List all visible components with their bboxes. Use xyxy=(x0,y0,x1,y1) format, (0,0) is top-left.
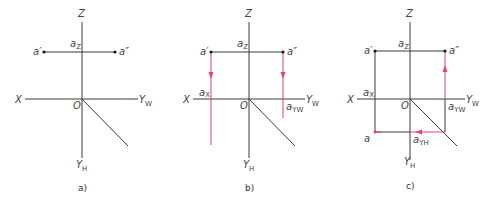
point-a-side xyxy=(281,50,284,53)
label-az: aZ xyxy=(70,38,81,51)
point-a-front xyxy=(209,50,212,53)
label-ax: aX xyxy=(199,87,210,99)
label-x: X xyxy=(14,94,23,105)
point-a-side xyxy=(113,50,116,53)
point-a-top xyxy=(374,131,377,134)
label-yw: YW xyxy=(466,94,479,108)
caption-b: b) xyxy=(245,183,254,193)
label-yh: YH xyxy=(243,159,254,173)
label-ayh: aYH xyxy=(413,134,429,147)
label-a-side: a″ xyxy=(119,46,129,57)
label-az: aZ xyxy=(237,38,248,51)
label-o: O xyxy=(401,100,409,111)
label-yh: YH xyxy=(76,159,87,173)
label-x: X xyxy=(346,94,355,105)
label-yw: YW xyxy=(306,94,319,108)
orthographic-projection-diagram: Z X O YW YH a′ a″ aZ a) Z X O YW YH a′ a… xyxy=(0,0,497,205)
point-a-side xyxy=(443,49,446,52)
arrow-up-icon xyxy=(443,65,448,72)
label-a-front: a′ xyxy=(200,46,209,57)
label-az: aZ xyxy=(398,38,409,51)
label-yw: YW xyxy=(139,94,152,108)
caption-c: c) xyxy=(406,181,414,191)
arrow-down-icon xyxy=(209,72,214,79)
label-z: Z xyxy=(405,8,414,19)
label-o: O xyxy=(240,100,248,111)
label-a-top: a xyxy=(364,133,370,144)
arrow-down-icon xyxy=(281,72,286,79)
label-x: X xyxy=(182,94,191,105)
label-a-side: a″ xyxy=(449,45,459,56)
label-yh: YH xyxy=(404,156,415,170)
label-ayw: aYW xyxy=(286,101,303,114)
caption-a: a) xyxy=(78,183,87,193)
panel-b: Z X O YW YH a′ a″ aZ aX aYW b) xyxy=(182,8,319,193)
panel-a: Z X O YW YH a′ a″ aZ a) xyxy=(14,8,152,193)
45-degree-line xyxy=(82,99,128,146)
label-z: Z xyxy=(77,8,86,19)
point-a-front xyxy=(373,49,376,52)
label-a-front: a′ xyxy=(33,46,42,57)
panel-c: Z X O YW YH a′ a″ a aZ aX aYW aYH c) xyxy=(346,8,479,191)
label-a-side: a″ xyxy=(287,46,297,57)
label-ayw: aYW xyxy=(448,101,465,114)
label-a-front: a′ xyxy=(364,45,373,56)
label-ax: aX xyxy=(363,87,374,99)
label-z: Z xyxy=(244,8,253,19)
label-o: O xyxy=(73,100,81,111)
point-a-front xyxy=(42,50,45,53)
